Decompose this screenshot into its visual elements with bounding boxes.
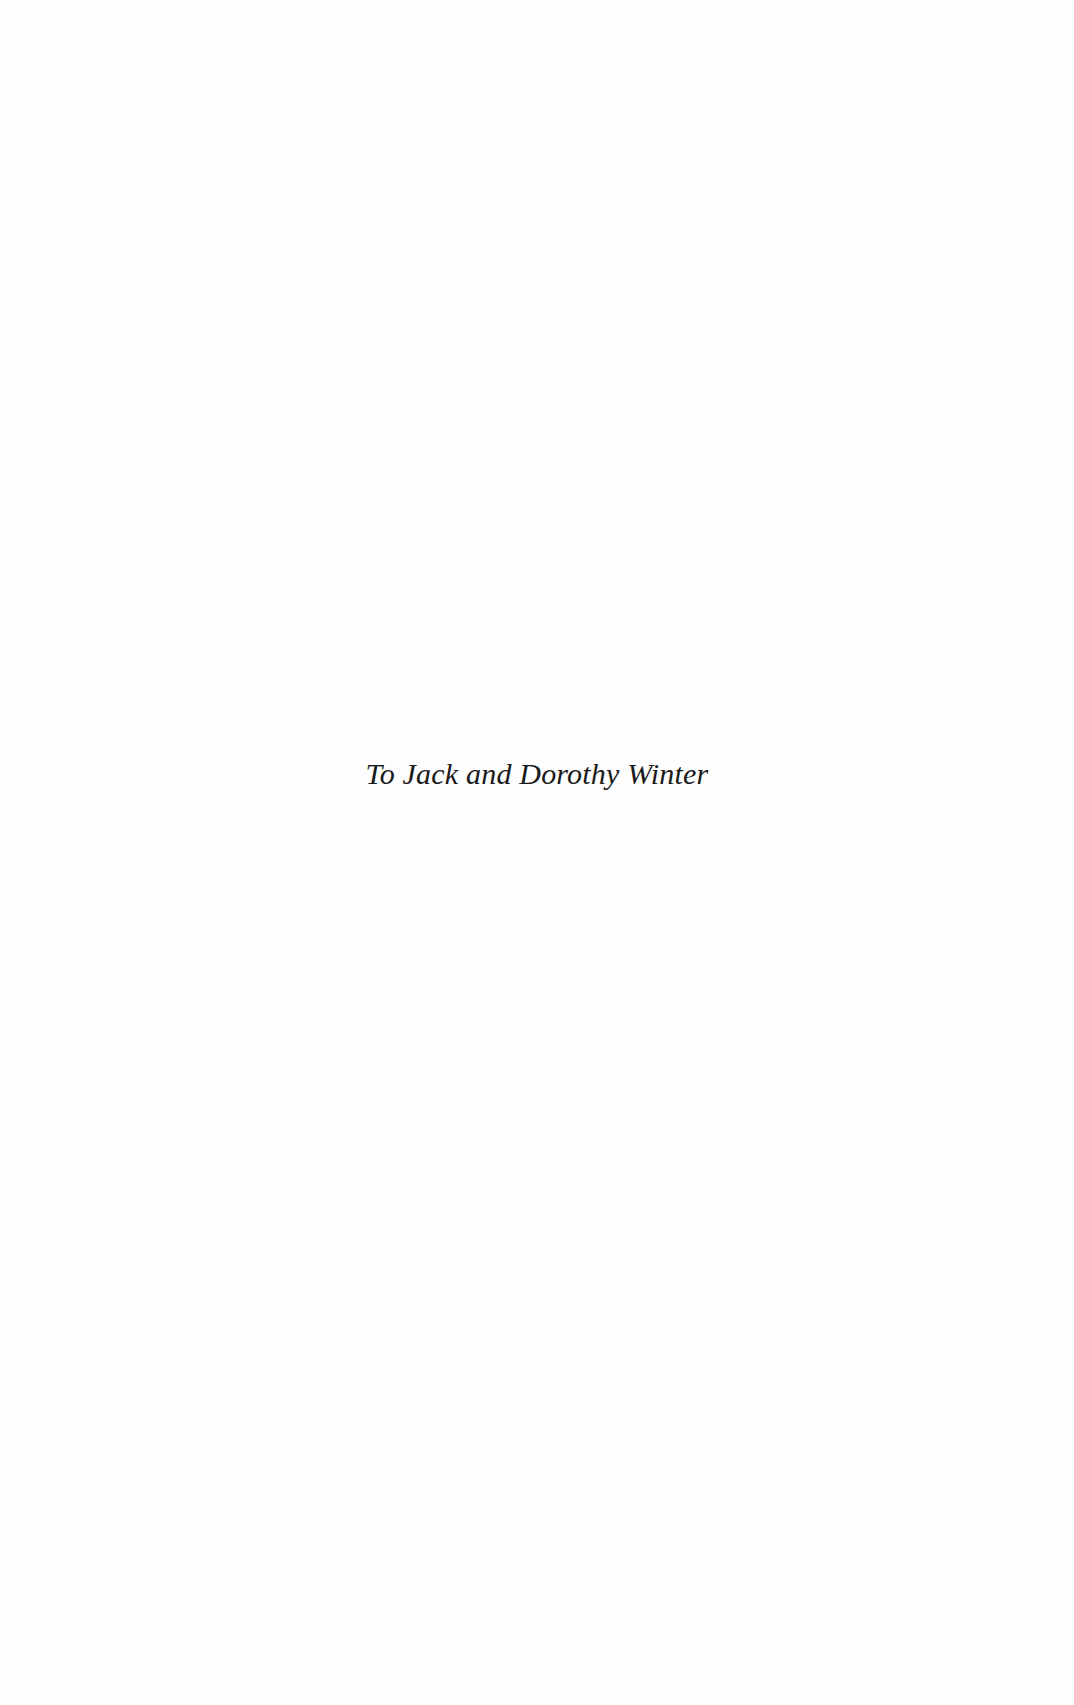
book-page: To Jack and Dorothy Winter <box>0 0 1074 1705</box>
dedication-text: To Jack and Dorothy Winter <box>0 756 1074 792</box>
